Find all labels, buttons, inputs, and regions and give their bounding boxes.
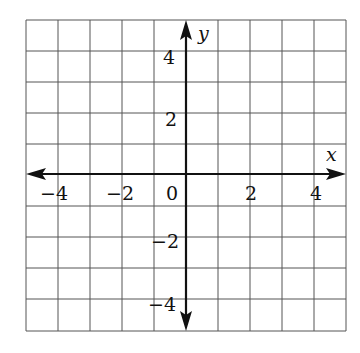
y-tick-label: 4 [163,46,175,68]
x-axis-label: x [326,143,337,165]
coordinate-plane: y x −4 −2 0 2 4 4 2 −2 −4 [0,0,360,353]
y-tick-label: 2 [165,108,177,130]
origin-label: 0 [166,182,178,204]
x-tick-label: 2 [245,182,257,204]
y-axis-label: y [197,22,209,44]
x-tick-label: −4 [40,182,68,204]
x-tick-label: −2 [106,182,134,204]
y-tick-label: −2 [151,230,179,252]
x-tick-label: 4 [310,182,322,204]
y-axis [180,20,192,331]
y-tick-label: −4 [148,293,176,315]
